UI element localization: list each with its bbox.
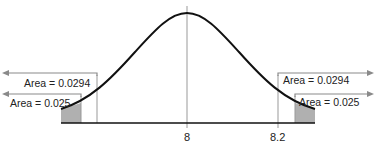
left-outer-arrow (6, 73, 97, 76)
left-outer-arrowhead (2, 70, 9, 76)
right-inner-arrowhead (367, 91, 374, 97)
left-inner-label: Area = 0.025 (10, 97, 71, 109)
tick-mean: 8 (184, 131, 190, 143)
bell-curve (61, 13, 315, 109)
right-outer-label: Area = 0.0294 (283, 74, 349, 86)
right-inner-label: Area = 0.025 (299, 96, 360, 108)
tick-right: 8.2 (270, 131, 285, 143)
normal-distribution-chart: Area = 0.0294 Area = 0.025 Area = 0.0294… (0, 0, 376, 152)
right-outer-arrowhead (367, 70, 374, 76)
left-inner-arrowhead (2, 91, 9, 97)
left-outer-label: Area = 0.0294 (24, 77, 90, 89)
